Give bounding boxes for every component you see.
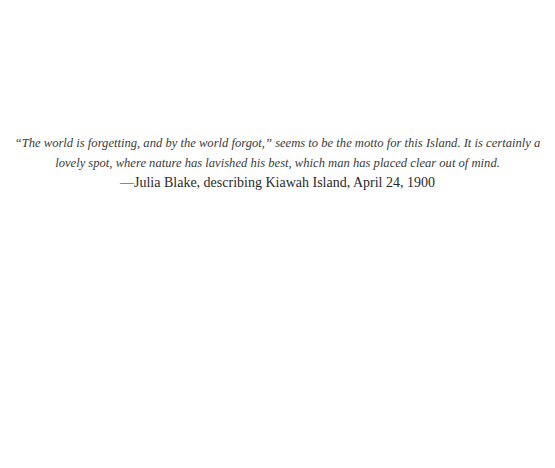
quote-line-2: lovely spot, where nature has lavished h… — [55, 156, 500, 170]
epigraph-quote: “The world is forgetting, and by the wor… — [13, 133, 543, 173]
epigraph-attribution: —Julia Blake, describing Kiawah Island, … — [0, 173, 555, 193]
quote-line-1: “The world is forgetting, and by the wor… — [15, 136, 541, 150]
epigraph-block: “The world is forgetting, and by the wor… — [0, 133, 555, 193]
